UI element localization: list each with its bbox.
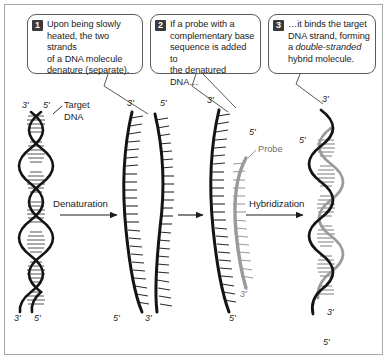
callout-1-line-1: Upon being slowly [47, 19, 121, 29]
end-label-duplex-top-left: 3' [22, 100, 29, 110]
probe-leader [248, 150, 256, 158]
callout-tail-3 [296, 74, 323, 104]
end-label-probe-bottom: 3' [240, 289, 247, 299]
callout-2-line-4: the denatured DNA… [170, 65, 226, 87]
target-dna-label-line1: Target [64, 100, 90, 110]
callout-text-1: Upon being slowly heated, the two strand… [47, 19, 137, 77]
hybridization-label: Hybridization [249, 198, 304, 209]
callout-1-line-3: of a DNA molecule [47, 54, 122, 64]
callout-text-3: …it binds the target DNA strand, forming… [288, 19, 370, 65]
callout-step-1: 1 Upon being slowly heated, the two stra… [27, 14, 143, 74]
end-label-target3-top: 3' [207, 95, 214, 105]
callout-1-line-2: heated, the two strands [47, 31, 109, 53]
target-strand-with-probe [211, 110, 236, 312]
step-badge-3: 3 [273, 20, 284, 31]
target-dna-label-line2: DNA [64, 112, 83, 122]
callout-tail-1 [104, 74, 148, 114]
dna-hybridization-figure: 1 Upon being slowly heated, the two stra… [0, 0, 387, 359]
callout-step-2: 2 If a probe with a complementary base s… [150, 14, 261, 74]
end-label-duplex-top-right: 5' [43, 100, 50, 110]
probe-strand [233, 158, 253, 288]
callout-3-line-2: DNA strand, forming [288, 31, 370, 41]
denaturation-label: Denaturation [53, 198, 108, 209]
target-dna-double-helix [19, 112, 53, 312]
end-label-denatured-a-bottom: 5' [113, 313, 120, 323]
end-label-probe-top: 5' [249, 127, 256, 137]
end-label-hybrid-bottom-outer: 5' [323, 337, 330, 347]
end-label-denatured-b-bottom: 3' [145, 313, 152, 323]
step-badge-2: 2 [155, 20, 166, 31]
callout-step-3: 3 …it binds the target DNA strand, formi… [268, 14, 376, 74]
end-label-duplex-bottom-left: 3' [14, 313, 21, 323]
probe-label: Probe [258, 144, 283, 154]
end-label-hybrid-top-outer: 3' [322, 94, 329, 104]
denatured-strand-a [124, 112, 149, 312]
end-label-hybrid-bottom-inner: 3' [327, 307, 334, 317]
end-label-hybrid-top-inner: 5' [299, 135, 306, 145]
callout-3-line-4: hybrid molecule. [288, 54, 354, 64]
callout-2-line-3: sequence is added to [170, 42, 246, 64]
end-label-duplex-bottom-right: 5' [34, 313, 41, 323]
hybrid-double-helix [309, 110, 343, 314]
callout-2-line-1: If a probe with a [170, 19, 235, 29]
end-label-denatured-a-top: 3' [127, 98, 134, 108]
callout-3-line-1: …it binds the target [288, 19, 367, 29]
end-label-target3-bottom: 5' [229, 313, 236, 323]
denatured-strand-b [155, 114, 174, 312]
callout-1-line-4: denature (separate). [47, 65, 129, 75]
step-badge-1: 1 [32, 20, 43, 31]
callout-3-line-3-prefix: a [288, 42, 296, 52]
callout-3-line-3-emphasis: double-stranded [296, 42, 362, 52]
callout-text-2: If a probe with a complementary base seq… [170, 19, 255, 89]
target-dna-leader [53, 106, 62, 114]
end-label-denatured-b-top: 5' [160, 98, 167, 108]
callout-2-line-2: complementary base [170, 31, 254, 41]
